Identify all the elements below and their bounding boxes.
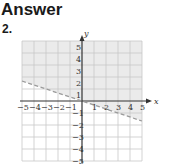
svg-text:−4: −4: [72, 145, 84, 154]
svg-text:2: 2: [76, 79, 81, 88]
svg-text:−5: −5: [17, 103, 29, 112]
svg-text:3: 3: [76, 67, 81, 76]
svg-text:−2: −2: [72, 121, 84, 130]
svg-text:−4: −4: [29, 103, 41, 112]
svg-text:4: 4: [76, 55, 81, 64]
svg-text:2: 2: [104, 103, 109, 112]
svg-text:3: 3: [116, 103, 121, 112]
svg-text:−5: −5: [72, 157, 84, 166]
svg-text:−1: −1: [72, 109, 84, 118]
svg-text:−3: −3: [41, 103, 53, 112]
svg-text:4: 4: [128, 103, 133, 112]
coordinate-graph: x y −5 −4 −3 −2 −1 1 2 3 4 5 5 4 3 2 1 −…: [0, 0, 188, 168]
svg-text:−2: −2: [53, 103, 65, 112]
x-axis-arrow-icon: [146, 99, 152, 104]
svg-text:−3: −3: [72, 133, 84, 142]
y-axis-label: y: [83, 29, 89, 38]
svg-text:5: 5: [76, 43, 81, 52]
svg-text:1: 1: [92, 103, 97, 112]
x-axis-label: x: [154, 97, 159, 106]
svg-text:1: 1: [76, 91, 81, 100]
svg-text:5: 5: [140, 103, 145, 112]
